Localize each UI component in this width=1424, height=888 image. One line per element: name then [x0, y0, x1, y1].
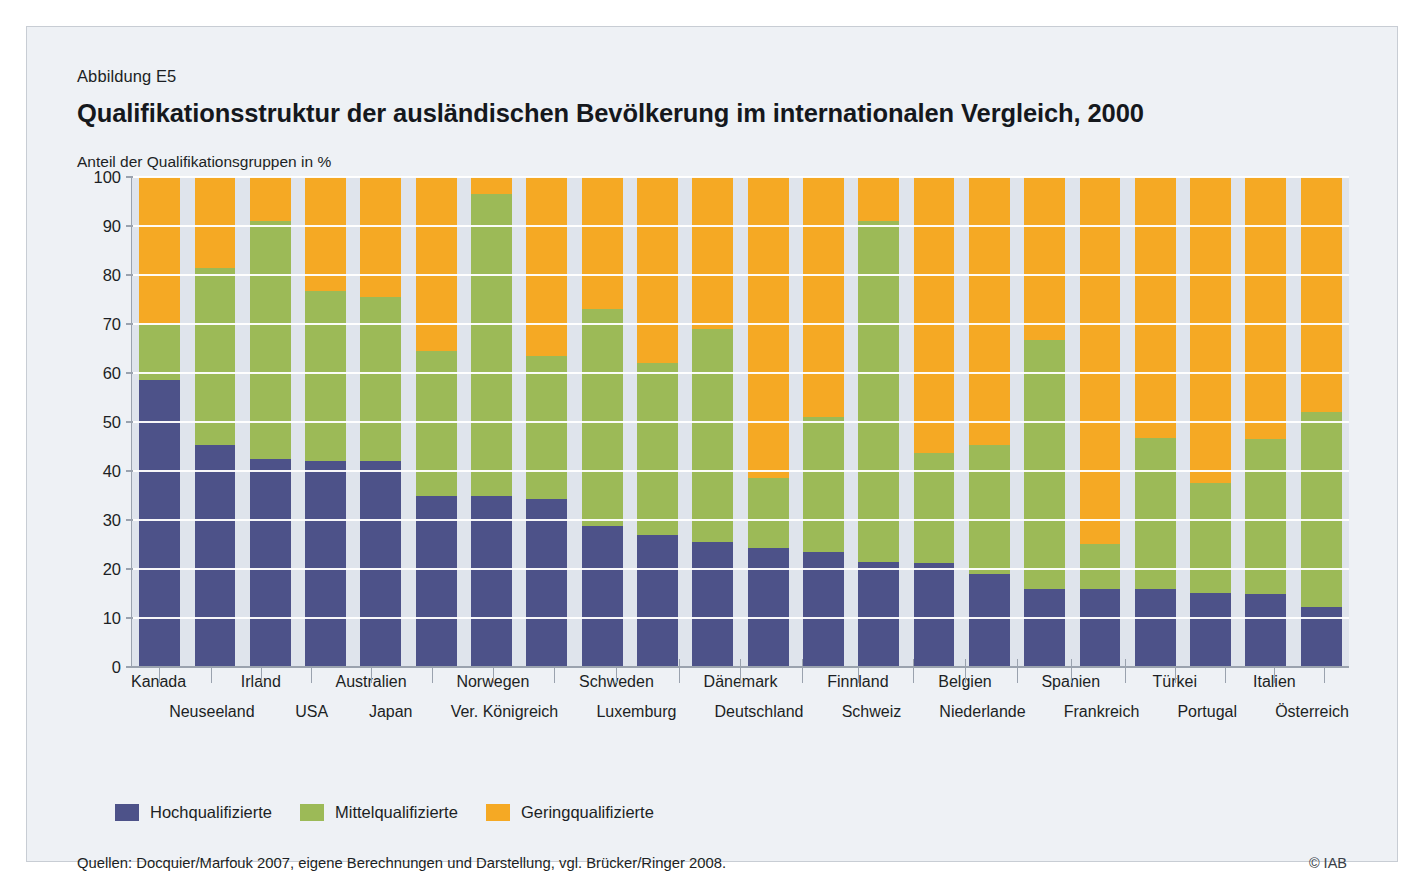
bar-segment-high: [1245, 594, 1286, 668]
stacked-bar[interactable]: [1080, 177, 1121, 667]
stacked-bar[interactable]: [1190, 177, 1231, 667]
y-axis-tick-label: 10: [103, 609, 121, 628]
stacked-bar[interactable]: [1135, 177, 1176, 667]
stacked-bar[interactable]: [1245, 177, 1286, 667]
bar-segment-mid: [1190, 483, 1231, 592]
bar-segment-mid: [305, 291, 346, 461]
bar-segment-high: [1080, 589, 1121, 667]
stacked-bar[interactable]: [692, 177, 733, 667]
bar-segment-high: [914, 563, 955, 667]
bar-slot: [132, 177, 187, 667]
x-axis-label-row-lower: NeuseelandUSAJapanVer. KönigreichLuxembu…: [131, 699, 1349, 727]
x-axis-label-spacer: [558, 699, 596, 727]
copyright-note: © IAB: [1309, 855, 1347, 871]
legend-label: Geringqualifizierte: [521, 803, 654, 822]
stacked-bar[interactable]: [914, 177, 955, 667]
bar-segment-high: [1190, 593, 1231, 667]
stacked-bar[interactable]: [748, 177, 789, 667]
x-axis-tick: [777, 669, 827, 697]
bar-slot: [685, 177, 740, 667]
x-axis-label-text: Niederlande: [939, 703, 1025, 720]
stacked-bar[interactable]: [1301, 177, 1342, 667]
stacked-bar[interactable]: [471, 177, 512, 667]
x-axis-tick: [186, 669, 236, 697]
y-axis-tick-mark: [126, 617, 133, 619]
y-axis-tick-mark: [126, 519, 133, 521]
bar-segment-high: [803, 552, 844, 667]
bar-segment-low: [416, 177, 457, 351]
bar-segment-low: [692, 177, 733, 329]
bar-segment-high: [1301, 607, 1342, 667]
y-axis-tick-mark: [126, 323, 133, 325]
stacked-bar[interactable]: [360, 177, 401, 667]
x-axis-label: Japan: [369, 699, 413, 727]
x-axis-label-spacer: [804, 699, 842, 727]
bar-segment-high: [692, 542, 733, 667]
bar-segment-mid: [471, 194, 512, 496]
x-axis-tick: [1100, 669, 1150, 697]
x-axis-tick: [529, 669, 579, 697]
x-axis-label-text: Neuseeland: [169, 703, 254, 720]
y-axis-tick-label: 30: [103, 511, 121, 530]
stacked-bar[interactable]: [803, 177, 844, 667]
x-axis-label-spacer: [901, 699, 939, 727]
bar-segment-low: [471, 177, 512, 194]
stacked-bar[interactable]: [305, 177, 346, 667]
bar-segment-mid: [1245, 439, 1286, 593]
stacked-bar[interactable]: [969, 177, 1010, 667]
legend-item[interactable]: Mittelqualifizierte: [300, 803, 458, 822]
x-axis-label: Niederlande: [939, 699, 1025, 727]
bar-segment-mid: [637, 363, 678, 535]
stacked-bar[interactable]: [637, 177, 678, 667]
bar-segment-mid: [748, 478, 789, 548]
y-axis-tick-mark: [126, 372, 133, 374]
x-axis-label: Kanada: [131, 669, 186, 697]
x-axis-label-spacer: [1026, 699, 1064, 727]
stacked-bar[interactable]: [1024, 177, 1065, 667]
bar-slot: [1017, 177, 1072, 667]
figure-title: Qualifikationsstruktur der ausländischen…: [77, 99, 1144, 128]
x-axis-label-text: Luxemburg: [596, 703, 676, 720]
bar-segment-low: [803, 177, 844, 417]
figure-panel: Abbildung E5 Qualifikationsstruktur der …: [26, 26, 1398, 862]
stacked-bar[interactable]: [582, 177, 623, 667]
legend-swatch: [300, 804, 324, 821]
x-axis-label: Belgien: [938, 669, 991, 697]
legend-item[interactable]: Hochqualifizierte: [115, 803, 272, 822]
bar-segment-low: [748, 177, 789, 478]
bar-slot: [796, 177, 851, 667]
bar-segment-high: [195, 445, 236, 667]
x-axis-label: Schweiz: [842, 699, 902, 727]
x-axis-label-row-upper: KanadaIrlandAustralienNorwegenSchwedenDä…: [131, 669, 1349, 697]
stacked-bar[interactable]: [526, 177, 567, 667]
x-axis-label: Australien: [335, 669, 406, 697]
stacked-bar[interactable]: [139, 177, 180, 667]
y-axis-tick-label: 20: [103, 560, 121, 579]
y-axis-tick-label: 70: [103, 315, 121, 334]
legend-label: Hochqualifizierte: [150, 803, 272, 822]
y-axis-tick-label: 80: [103, 266, 121, 285]
bar-segment-mid: [1135, 438, 1176, 589]
bar-segment-high: [858, 562, 899, 667]
figure-page: Abbildung E5 Qualifikationsstruktur der …: [0, 0, 1424, 888]
bar-segment-mid: [858, 221, 899, 562]
x-axis-labels: KanadaIrlandAustralienNorwegenSchwedenDä…: [131, 669, 1349, 739]
bar-slot: [1294, 177, 1349, 667]
stacked-bar[interactable]: [195, 177, 236, 667]
x-axis-label-spacer: [131, 699, 169, 727]
x-axis-label: Türkei: [1150, 669, 1200, 697]
y-axis-tick-label: 100: [93, 168, 121, 187]
plot-area-wrapper: 0102030405060708090100: [77, 177, 1349, 667]
bar-segment-high: [969, 574, 1010, 667]
stacked-bar[interactable]: [416, 177, 457, 667]
legend-item[interactable]: Geringqualifizierte: [486, 803, 654, 822]
bar-segment-high: [360, 461, 401, 667]
stacked-bar[interactable]: [250, 177, 291, 667]
bar-slot: [1072, 177, 1127, 667]
bar-slot: [409, 177, 464, 667]
x-axis-label: Italien: [1249, 669, 1299, 697]
bar-segment-low: [582, 177, 623, 309]
y-axis-tick-mark: [126, 470, 133, 472]
stacked-bar[interactable]: [858, 177, 899, 667]
x-axis-label: Finnland: [827, 669, 888, 697]
